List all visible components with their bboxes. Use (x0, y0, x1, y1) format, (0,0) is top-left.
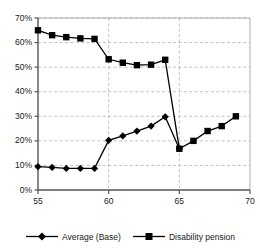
y-axis-tick-label: 50% (0, 63, 32, 72)
y-axis-tick-label: 70% (0, 14, 32, 23)
x-axis-tick-label: 70 (236, 197, 260, 206)
x-axis-tick-label: 60 (95, 197, 123, 206)
y-axis-tick-label: 60% (0, 38, 32, 47)
legend-item-average: Average (Base) (25, 231, 121, 242)
x-axis-tick-label: 65 (165, 197, 193, 206)
chart-legend: Average (Base) Disability pension (0, 231, 260, 242)
y-axis-tick-label: 40% (0, 87, 32, 96)
y-axis-tick-label: 0% (0, 186, 32, 195)
x-axis-tick-label: 55 (24, 197, 52, 206)
chart-container: Average (Base) Disability pension 0%10%2… (0, 0, 260, 248)
plot-area (0, 0, 260, 248)
y-axis-tick-label: 20% (0, 136, 32, 145)
square-marker-icon (132, 231, 166, 242)
legend-item-disability: Disability pension (132, 231, 235, 242)
diamond-marker-icon (25, 231, 59, 242)
y-axis-tick-label: 10% (0, 161, 32, 170)
y-axis-tick-label: 30% (0, 112, 32, 121)
legend-label-disability: Disability pension (169, 232, 235, 242)
legend-label-average: Average (Base) (62, 232, 121, 242)
